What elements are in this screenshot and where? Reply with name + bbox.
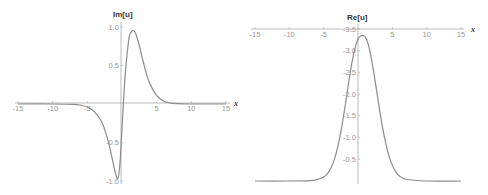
y-tick-label: -1.0 bbox=[343, 133, 356, 142]
re-u-plot: -15-10-551015 -0.5-1.0-1.5-2.0-2.5-3.0-3… bbox=[250, 13, 475, 184]
y-tick-label: 0.5 bbox=[109, 61, 119, 70]
x-tick-label: -15 bbox=[250, 30, 261, 39]
x-tick-label: -5 bbox=[320, 30, 327, 39]
y-tick-labels: -0.5-1.0-1.5-2.0-2.5-3.0-3.5 bbox=[343, 25, 360, 164]
x-tick-label: 10 bbox=[422, 30, 430, 39]
x-axis-label: x bbox=[470, 25, 475, 34]
im-u-plot: -15-10-551015 1.00.5-0.5-1.0 Im[u] x bbox=[13, 10, 238, 186]
y-axis-label: Im[u] bbox=[113, 10, 133, 19]
x-tick-label: 5 bbox=[155, 104, 159, 113]
x-tick-label: -10 bbox=[284, 30, 295, 39]
y-tick-label: -2.0 bbox=[343, 90, 356, 99]
x-tick-label: -10 bbox=[47, 104, 58, 113]
y-tick-label: -0.5 bbox=[343, 155, 356, 164]
x-tick-label: 15 bbox=[222, 104, 230, 113]
y-tick-label: -3.5 bbox=[343, 25, 356, 34]
y-tick-label: 1.0 bbox=[109, 23, 119, 32]
x-tick-label: 15 bbox=[457, 30, 465, 39]
x-tick-label: 10 bbox=[187, 104, 195, 113]
x-tick-label: 5 bbox=[390, 30, 394, 39]
y-tick-label: -1.5 bbox=[343, 111, 356, 120]
chart-canvas: -15-10-551015 1.00.5-0.5-1.0 Im[u] x -15… bbox=[0, 0, 488, 195]
x-tick-label: -15 bbox=[13, 104, 24, 113]
x-axis-label: x bbox=[233, 99, 238, 108]
y-axis-label: Re[u] bbox=[347, 13, 368, 22]
